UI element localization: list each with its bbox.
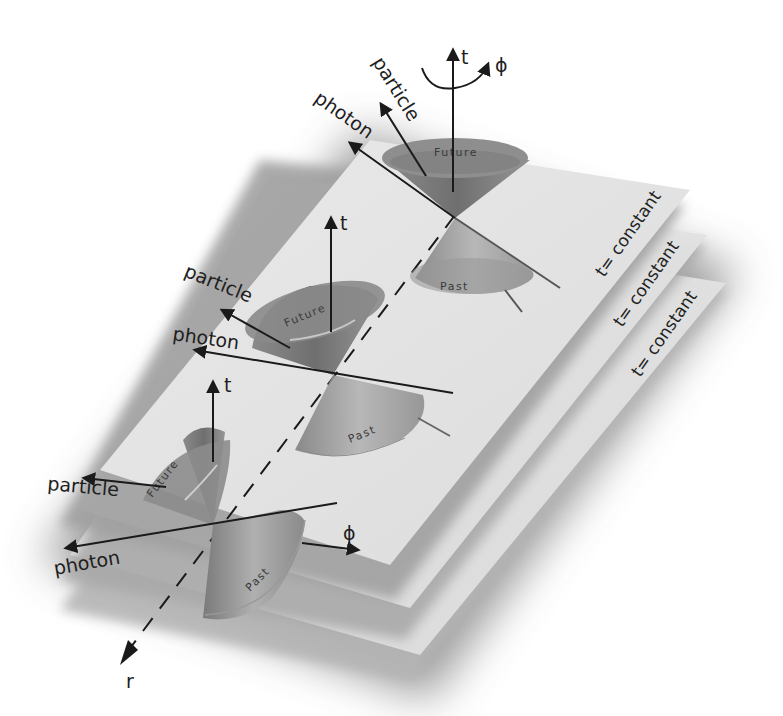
phi-axis-label: ϕ	[343, 522, 356, 544]
r-axis-label: r	[126, 670, 134, 692]
rotation-phi-label: ϕ	[495, 54, 508, 76]
top-photon-label: photon	[311, 86, 378, 142]
light-cone-diagram: t= constant t= constant t= constant r Fu…	[0, 0, 783, 716]
top-future-label: Future	[434, 146, 478, 159]
top-past-label: Past	[440, 280, 469, 293]
rotation-arrow	[422, 64, 488, 89]
middle-t-label: t	[340, 212, 347, 234]
top-particle-label: particle	[369, 52, 426, 124]
bottom-t-label: t	[224, 374, 231, 396]
top-t-label: t	[461, 46, 468, 68]
